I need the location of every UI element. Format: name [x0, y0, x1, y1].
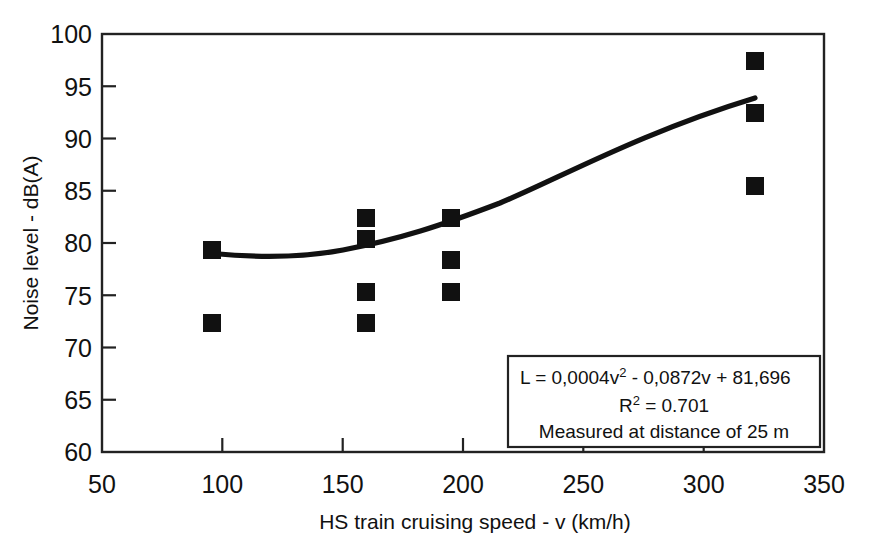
- data-point: [357, 283, 375, 301]
- data-point: [203, 241, 221, 259]
- data-point: [442, 251, 460, 269]
- y-tick-label: 90: [64, 125, 92, 153]
- equation-exponent: 2: [619, 365, 626, 380]
- data-point: [746, 177, 764, 195]
- chart-background: [0, 0, 870, 552]
- noise-vs-speed-scatter-chart: 100 95 90 85 80 75 70 65 60 50 100 150 2…: [0, 0, 870, 552]
- data-point: [746, 52, 764, 70]
- y-tick-label: 100: [50, 20, 92, 48]
- r-squared-line: R2 = 0.701: [619, 393, 709, 416]
- equation-prefix: L = 0,0004v: [520, 367, 620, 388]
- x-tick-label: 100: [201, 470, 243, 498]
- equation-annotation-box: L = 0,0004v2 - 0,0872v + 81,696 R2 = 0.7…: [508, 356, 820, 447]
- data-point: [357, 209, 375, 227]
- x-tick-label: 350: [803, 470, 845, 498]
- chart-figure: 100 95 90 85 80 75 70 65 60 50 100 150 2…: [0, 0, 870, 552]
- data-point: [442, 283, 460, 301]
- y-tick-label: 75: [64, 282, 92, 310]
- x-tick-label: 200: [442, 470, 484, 498]
- y-tick-label: 80: [64, 229, 92, 257]
- data-point: [203, 314, 221, 332]
- data-point: [442, 209, 460, 227]
- x-tick-label: 250: [562, 470, 604, 498]
- x-tick-label: 150: [322, 470, 364, 498]
- y-tick-label: 95: [64, 73, 92, 101]
- equation-line: L = 0,0004v2 - 0,0872v + 81,696: [520, 365, 791, 388]
- data-point: [357, 230, 375, 248]
- data-point: [357, 314, 375, 332]
- y-tick-label: 60: [64, 438, 92, 466]
- equation-middle: - 0,0872v + 81,696: [626, 367, 790, 388]
- x-tick-label: 300: [683, 470, 725, 498]
- measurement-note: Measured at distance of 25 m: [539, 421, 789, 442]
- data-point: [746, 104, 764, 122]
- y-tick-label: 65: [64, 386, 92, 414]
- r-symbol: R: [619, 395, 633, 416]
- r-exponent: 2: [633, 393, 640, 408]
- y-tick-label: 70: [64, 334, 92, 362]
- y-tick-label: 85: [64, 177, 92, 205]
- x-axis-title: HS train cruising speed - v (km/h): [319, 510, 631, 533]
- y-axis-title: Noise level - dB(A): [19, 155, 42, 330]
- x-tick-label: 50: [88, 470, 116, 498]
- r-value: = 0.701: [640, 395, 709, 416]
